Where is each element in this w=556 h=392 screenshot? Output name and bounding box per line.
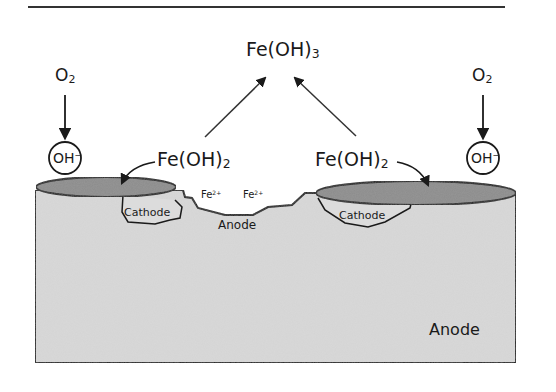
pit-anode-label: Anode <box>218 219 256 231</box>
fe2-ion-left-label: Fe2+ <box>201 190 221 200</box>
cathode-left-label: Cathode <box>124 207 170 218</box>
o2-left-label: O2 <box>55 67 75 85</box>
bulk-anode-label: Anode <box>429 322 480 338</box>
feoh3-label: Fe(OH)3 <box>246 40 320 60</box>
feoh2-right-label: Fe(OH)2 <box>315 150 389 170</box>
deposit-left <box>36 177 176 197</box>
feoh2-left-label: Fe(OH)2 <box>157 150 231 170</box>
arrow-right-to-feoh3 <box>295 78 356 136</box>
hydroxide-left-label: OH− <box>53 151 82 165</box>
arrow-left-to-feoh3 <box>205 78 265 137</box>
deposit-right <box>316 181 516 205</box>
cathode-right-label: Cathode <box>339 210 385 221</box>
hydroxide-right-label: OH− <box>471 151 500 165</box>
o2-right-label: O2 <box>472 67 492 85</box>
fe2-ion-right-label: Fe2+ <box>243 190 263 200</box>
